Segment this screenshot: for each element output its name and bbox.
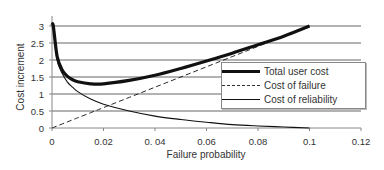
x-tick-label: 0.12	[352, 136, 371, 147]
legend-item-cost-of-failure: Cost of failure	[222, 78, 326, 92]
legend-label: Cost of reliability	[264, 94, 337, 105]
y-tick-label: 3	[39, 21, 44, 32]
x-tick-label: 0	[49, 136, 54, 147]
y-tick-label: 1	[39, 89, 44, 100]
y-tick-label: 0.5	[31, 106, 44, 117]
y-tick-label: 0	[39, 123, 44, 134]
legend: Total user cost Cost of failure Cost of …	[221, 62, 366, 109]
legend-label: Total user cost	[264, 66, 328, 77]
x-tick-label: 0.02	[94, 136, 113, 147]
y-tick-label: 1.5	[31, 72, 44, 83]
legend-label: Cost of failure	[264, 80, 326, 91]
x-tick-label: 0. 04	[144, 136, 165, 147]
y-tick-label: 2	[39, 55, 44, 66]
legend-item-total-user-cost: Total user cost	[222, 64, 328, 78]
legend-item-cost-of-reliability: Cost of reliability	[222, 92, 337, 106]
x-axis-title: Failure probability	[167, 149, 246, 160]
x-tick-label: 0.08	[249, 136, 268, 147]
x-tick-label: 0.1	[303, 136, 316, 147]
dashed-line-swatch-icon	[222, 85, 260, 86]
thick-line-swatch-icon	[222, 70, 260, 73]
y-tick-label: 2.5	[31, 38, 44, 49]
thin-line-swatch-icon	[222, 99, 260, 100]
x-tick-label: 0.06	[197, 136, 216, 147]
y-axis-title: Cost increment	[15, 43, 26, 110]
